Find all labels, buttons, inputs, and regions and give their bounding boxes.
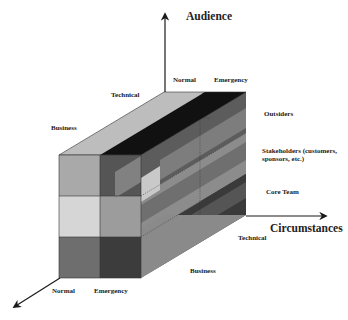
bottom-label-normal: Normal: [52, 287, 75, 295]
front-outsiders-normal: [59, 155, 100, 196]
bottom-label-emergency: Emergency: [94, 287, 128, 295]
right-label-stakeholders: Stakeholders (customers, sponsors, etc.): [262, 147, 346, 163]
audience-axis-title: Audience: [186, 10, 232, 22]
top-label-business: Business: [51, 124, 77, 132]
cube-front-face: [59, 155, 141, 278]
front-stakeholders-emergency: [100, 196, 141, 237]
bottom-label-technical: Technical: [238, 234, 267, 242]
front-stakeholders-normal: [59, 196, 100, 237]
front-core-emergency: [100, 237, 141, 278]
circumstances-axis-title: Circumstances: [270, 222, 343, 234]
top-label-normal: Normal: [173, 76, 196, 84]
bottom-label-business: Business: [190, 267, 216, 275]
right-label-outsiders: Outsiders: [264, 110, 293, 118]
right-label-core-team: Core Team: [266, 188, 299, 196]
top-label-emergency: Emergency: [214, 76, 248, 84]
front-core-normal: [59, 237, 100, 278]
top-label-technical: Technical: [111, 91, 140, 99]
